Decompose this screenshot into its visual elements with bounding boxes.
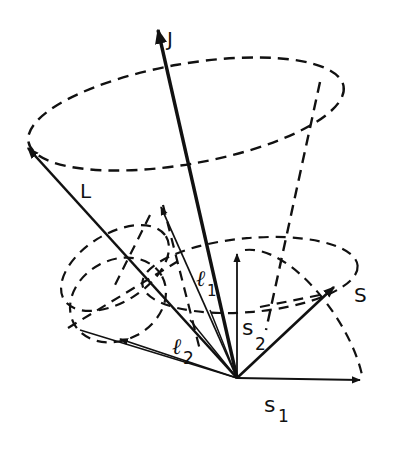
label-s: S bbox=[354, 283, 367, 307]
label-s2-subscript: 2 bbox=[255, 334, 266, 354]
label-s2: s bbox=[242, 315, 253, 340]
vector-j bbox=[158, 30, 237, 378]
label-j: J bbox=[165, 27, 173, 51]
label-l1: ℓ bbox=[196, 266, 206, 291]
labels: J L S ℓ 1 ℓ 2 s 2 s 1 bbox=[80, 27, 367, 426]
l1-cone-ellipse bbox=[46, 207, 184, 328]
label-l: L bbox=[80, 179, 92, 203]
label-l2: ℓ bbox=[172, 334, 182, 359]
label-l2-subscript: 2 bbox=[183, 348, 194, 368]
label-s1-subscript: 1 bbox=[278, 406, 289, 426]
cone-top-ellipse bbox=[20, 37, 353, 191]
label-l1-subscript: 1 bbox=[207, 282, 217, 300]
label-s1: s bbox=[264, 392, 275, 417]
s-cone-arc bbox=[245, 250, 362, 375]
vector-coupling-diagram: J L S ℓ 1 ℓ 2 s 2 s 1 bbox=[0, 0, 393, 449]
vector-s1 bbox=[237, 378, 360, 380]
j-precession-cone bbox=[20, 37, 353, 330]
l-cone-sides bbox=[68, 205, 200, 350]
cone-right-edge bbox=[266, 82, 320, 330]
s-cone-inner bbox=[260, 295, 320, 307]
